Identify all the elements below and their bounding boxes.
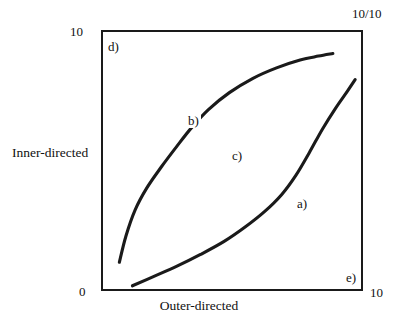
- y-axis-max-label: 10: [70, 25, 83, 38]
- curve-label-a: a): [295, 196, 309, 211]
- corner-ratio-label: 10/10: [352, 7, 382, 20]
- reference-label-c: c): [230, 148, 244, 163]
- y-axis-min-label: 0: [79, 285, 86, 298]
- chart-figure: 10 0 10 10/10 Inner-directed Outer-direc…: [0, 0, 397, 319]
- region-label-d: d): [106, 39, 121, 54]
- x-axis-title: Outer-directed: [160, 299, 238, 313]
- x-axis-max-label: 10: [370, 286, 383, 299]
- curve-label-b: b): [186, 113, 201, 128]
- y-axis-title: Inner-directed: [12, 146, 88, 160]
- curve-b: [119, 53, 333, 262]
- region-label-e: e): [344, 270, 358, 285]
- curve-a: [132, 80, 355, 286]
